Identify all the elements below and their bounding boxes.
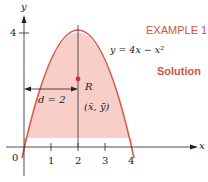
solution-label: Solution xyxy=(157,66,201,77)
x-tick-4: 4 xyxy=(128,156,134,166)
y-tick-4: 4 xyxy=(10,28,16,38)
centroid-dot xyxy=(76,77,81,82)
x-axis-arrow-icon xyxy=(190,145,198,150)
centroid-label: (x̄, ȳ) xyxy=(84,102,109,112)
y-axis-label: y xyxy=(21,2,27,12)
x-tick-3: 3 xyxy=(102,156,108,166)
origin-label: 0 xyxy=(12,153,18,163)
x-tick-2: 2 xyxy=(75,156,81,166)
x-tick-1: 1 xyxy=(48,156,54,166)
y-axis-arrow-icon xyxy=(22,15,27,23)
region-label: R xyxy=(85,82,93,92)
distance-label: d = 2 xyxy=(38,95,66,105)
equation-label: y = 4x − x² xyxy=(110,45,164,55)
x-axis-label: x xyxy=(199,141,205,151)
example-label: EXAMPLE 1 xyxy=(146,25,207,36)
left-arrow-icon xyxy=(24,87,31,92)
